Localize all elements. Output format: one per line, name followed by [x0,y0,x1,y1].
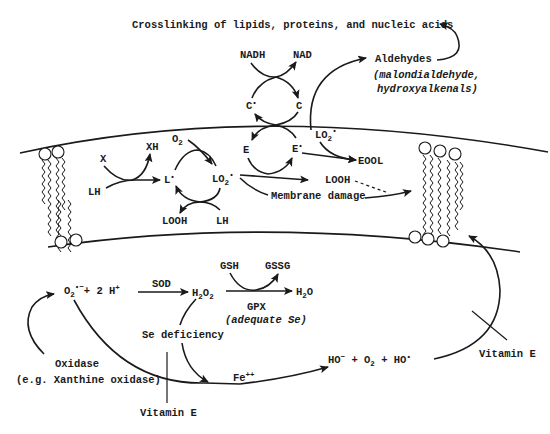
eool-label: EOOL [358,155,383,167]
vitamin-e-right-label: Vitamin E [479,348,536,360]
sod-label: SOD [152,278,171,290]
e-radical-label: E• [292,142,303,155]
x-to-xh-arrow [104,154,150,180]
se-deficiency-label: Se deficiency [142,329,225,341]
vitamin-e-right-inhibit-bar [472,311,507,340]
c-cycle-left-arrow [255,114,276,125]
lo2-radical-label: LO2• [212,171,234,187]
c-label: C [296,100,303,112]
l-lo2-cycle-bottom-right [200,188,220,202]
membrane-damage-to-bilayer-arrow [365,191,411,198]
crosslinking-label: Crosslinking of lipids, proteins, and nu… [132,19,453,31]
lo2-to-membrane-damage-curve [240,178,268,195]
gsh-to-gssg-arrow [230,273,278,290]
oxidase-to-superoxide-arrow [28,294,54,354]
o2-label: O2 [172,133,183,147]
membrane-damage-label: Membrane damage [271,190,366,202]
oxidase-example-label: (e.g. Xanthine oxidase) [16,374,161,386]
superoxide-label: O2•−+ 2 H+ [64,283,120,299]
aldehydes-detail-1: (malondialdehyde, [373,69,480,81]
se-deficiency-to-fe-arrow [182,343,208,382]
e-cycle-bottom-left [248,158,268,174]
e-radical-to-eool-arrow [302,153,356,160]
gpx-label: GPX [247,301,267,313]
phospholipid-left-icon [39,146,82,252]
looh-bottom-label: LOOH [162,215,187,227]
nad-label: NAD [293,49,312,61]
lo2-radical-right-label: LO2• [315,127,337,143]
c-radical-label: C• [246,99,257,112]
h2o-label: H2O [296,286,313,300]
membrane-upper-line [20,126,548,153]
lh-left-label: LH [88,186,101,198]
lh-to-l-radical-arrow [106,180,160,188]
xh-label: XH [146,141,159,153]
l-lo2-cycle-bottom-arrow [176,186,200,202]
superoxide-to-fe-curve [74,300,240,384]
lo2-to-looh-arrow [240,175,308,180]
e-cycle-bottom-arrow [268,158,292,174]
hydroxyl-to-membrane-arrow [434,236,500,359]
nadh-to-nad-arrow [251,62,296,77]
gsh-label: GSH [220,260,239,272]
phospholipid-right-icon [409,142,463,247]
adequate-se-label: (adequate Se) [225,314,307,326]
e-cycle-top-arrow [252,125,276,140]
lo2-to-aldehydes-arrow [310,58,366,130]
vitamin-e-bottom-label: Vitamin E [140,407,197,419]
hydroxyl-products-label: HO− + O2 + HO• [328,353,411,368]
lh-to-looh-arrow [180,202,220,213]
c-cycle-right-lower [276,112,298,125]
gssg-label: GSSG [265,260,290,272]
oxidase-label: Oxidase [55,358,99,370]
lh-bottom-label: LH [216,215,229,227]
e-label: E [243,144,249,156]
aldehydes-label: Aldehydes [375,53,432,65]
x-label: X [100,153,107,165]
h2o2-to-se-deficiency-curve [180,299,196,325]
aldehydes-detail-2: hydroxyalkenals) [377,83,478,95]
l-radical-label: L• [164,173,175,186]
looh-right-label: LOOH [325,174,350,186]
nadh-label: NADH [240,49,265,61]
c-cycle-left-upper [252,77,276,98]
lipid-peroxidation-diagram: Crosslinking of lipids, proteins, and nu… [0,0,550,434]
c-cycle-right-arrow [276,77,298,98]
